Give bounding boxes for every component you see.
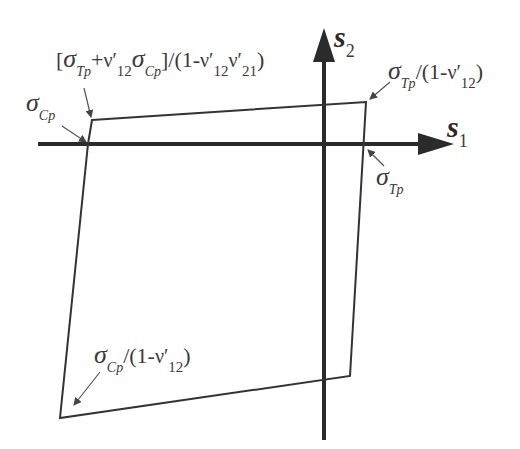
label-top-left-corner: [σTp+ν′12σCp]/(1-ν′12ν′21) [56,46,264,72]
failure-envelope [60,102,366,418]
s2-axis-label: s2 [334,22,355,52]
s2-arrowhead-icon [313,28,335,62]
pointer-top-right-corner [370,82,390,99]
s2-axis-subscript: 2 [346,41,355,61]
s1-axis-letter: s [447,110,459,143]
pointer-compressive-intercept [62,126,86,142]
pointer-bottom-left-corner [74,372,100,405]
s1-axis [38,133,454,155]
pointer-top-left-corner [84,88,91,117]
s1-axis-subscript: 1 [459,131,468,151]
label-bottom-left-corner: σCp/(1-ν′12) [94,342,191,368]
s2-axis-letter: s [334,20,346,53]
label-tensile-intercept: σTp [376,164,404,190]
label-compressive-intercept: σCp [26,90,55,116]
s1-axis-label: s1 [447,112,468,142]
label-top-right-corner: σTp/(1-ν′12) [388,58,483,84]
